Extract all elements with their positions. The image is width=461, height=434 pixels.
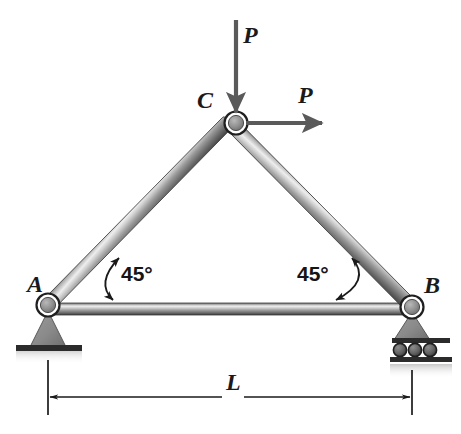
node-label-C: C xyxy=(197,88,213,112)
dimension-label-L: L xyxy=(226,370,241,394)
member-CB xyxy=(226,119,420,315)
joint-C xyxy=(225,112,248,135)
roller-wheel xyxy=(393,343,406,356)
angle-label-right: 45° xyxy=(297,263,329,284)
load-label-horizontal-P: P xyxy=(298,83,313,107)
support-roller-B xyxy=(390,312,452,378)
member-AB xyxy=(48,303,412,315)
node-label-A: A xyxy=(27,272,43,296)
angle-arc-right xyxy=(336,258,359,300)
support-pin-A xyxy=(16,311,82,364)
node-label-B: B xyxy=(424,273,440,297)
load-label-vertical-P: P xyxy=(243,23,258,47)
roller-wheel xyxy=(408,343,421,356)
roller-wheel xyxy=(423,343,436,356)
joint-B xyxy=(401,296,424,319)
angle-arc-left xyxy=(105,258,119,300)
angle-label-left: 45° xyxy=(121,263,153,284)
truss-figure: A B C P P 45° 45° L P xyxy=(0,0,461,434)
